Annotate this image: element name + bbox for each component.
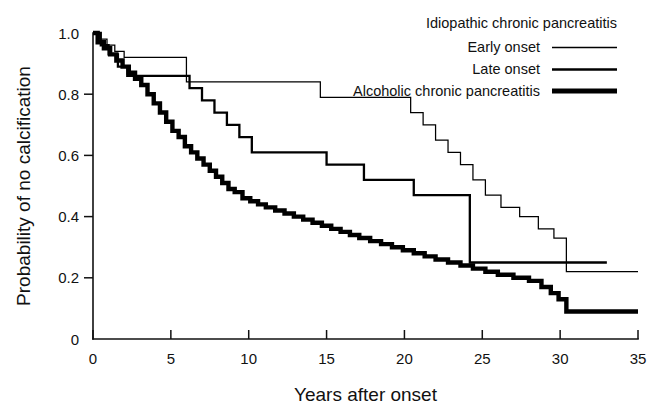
y-tick-label-1.0: 1.0: [58, 25, 79, 42]
y-tick-label-0.2: 0.2: [58, 269, 79, 286]
x-tick-group: 05101520253035: [89, 330, 647, 367]
x-tick-label-10: 10: [240, 350, 257, 367]
y-tick-label-0: 0: [71, 331, 79, 348]
y-axis-title: Probability of no calcification: [13, 66, 34, 306]
y-tick-label-0.6: 0.6: [58, 147, 79, 164]
legend: Idiopathic chronic pancreatitis Early on…: [353, 15, 617, 99]
x-axis-title: Years after onset: [294, 384, 438, 405]
legend-label-late-onset: Late onset: [472, 61, 540, 77]
legend-label-alcoholic: Alcoholic chronic pancreatitis: [353, 83, 540, 99]
x-axis: 05101520253035: [89, 330, 647, 367]
y-tick-label-0.8: 0.8: [58, 86, 79, 103]
x-tick-label-15: 15: [318, 350, 335, 367]
y-axis: 00.20.40.60.81.0: [58, 25, 93, 348]
x-tick-label-30: 30: [552, 350, 569, 367]
x-tick-label-20: 20: [396, 350, 413, 367]
x-tick-label-35: 35: [630, 350, 647, 367]
x-tick-label-0: 0: [89, 350, 97, 367]
curve-group: [93, 33, 638, 311]
figure-container: 00.20.40.60.81.0 05101520253035 Years af…: [0, 0, 660, 417]
y-tick-group: 00.20.40.60.81.0: [58, 25, 93, 348]
legend-group-heading: Idiopathic chronic pancreatitis: [426, 15, 617, 31]
legend-label-early-onset: Early onset: [467, 39, 540, 55]
survival-chart: 00.20.40.60.81.0 05101520253035 Years af…: [0, 0, 660, 417]
x-tick-label-25: 25: [474, 350, 491, 367]
x-tick-label-5: 5: [167, 350, 175, 367]
y-tick-label-0.4: 0.4: [58, 208, 79, 225]
